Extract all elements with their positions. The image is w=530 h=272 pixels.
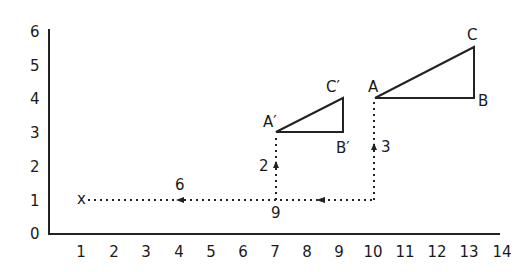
x-tick: 11 bbox=[395, 243, 414, 261]
x-tick: 12 bbox=[427, 243, 446, 261]
vertex-label-b: B bbox=[478, 92, 488, 110]
x-tick: 5 bbox=[206, 243, 216, 261]
y-axis-labels: 0 1 2 3 4 5 6 bbox=[30, 23, 40, 243]
y-tick: 1 bbox=[30, 192, 40, 210]
translation-diagram: 0 1 2 3 4 5 6 1 2 3 4 5 6 7 8 9 10 11 12… bbox=[0, 0, 530, 272]
x-axis-labels: 1 2 3 4 5 6 7 8 9 10 11 12 13 14 bbox=[76, 243, 511, 261]
label-6: 6 bbox=[175, 176, 185, 194]
x-tick: 2 bbox=[109, 243, 119, 261]
x-tick: 14 bbox=[492, 243, 511, 261]
y-tick: 4 bbox=[30, 90, 40, 108]
label-9: 9 bbox=[271, 204, 281, 222]
arrow-left-icon bbox=[176, 197, 184, 203]
arrow-left-icon bbox=[316, 197, 325, 203]
start-marker: x bbox=[77, 190, 86, 208]
triangle-a-prime-b-prime-c-prime bbox=[276, 98, 343, 132]
y-tick: 0 bbox=[30, 225, 40, 243]
translation-paths bbox=[88, 100, 377, 203]
vertex-label-c-prime: C′ bbox=[326, 78, 340, 96]
x-tick: 3 bbox=[141, 243, 151, 261]
triangle-abc bbox=[375, 47, 474, 98]
y-tick: 2 bbox=[30, 158, 40, 176]
vertex-label-c: C bbox=[467, 26, 477, 44]
x-tick: 1 bbox=[76, 243, 86, 261]
x-tick: 13 bbox=[459, 243, 478, 261]
y-tick: 3 bbox=[30, 124, 40, 142]
x-tick: 8 bbox=[302, 243, 312, 261]
vertex-label-a-prime: A′ bbox=[263, 113, 277, 131]
x-tick: 6 bbox=[238, 243, 248, 261]
y-tick: 5 bbox=[30, 57, 40, 75]
label-3: 3 bbox=[381, 138, 391, 156]
vertex-label-a: A bbox=[368, 78, 379, 96]
x-tick: 7 bbox=[270, 243, 280, 261]
y-tick: 6 bbox=[30, 23, 40, 41]
x-tick: 10 bbox=[363, 243, 382, 261]
arrow-up-icon bbox=[371, 143, 377, 150]
x-tick: 9 bbox=[334, 243, 344, 261]
arrow-up-icon bbox=[273, 161, 279, 168]
x-tick: 4 bbox=[174, 243, 184, 261]
vertex-label-b-prime: B′ bbox=[336, 139, 350, 157]
label-2: 2 bbox=[259, 157, 269, 175]
